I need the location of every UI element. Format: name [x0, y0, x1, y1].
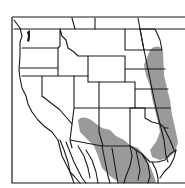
puget-sound — [27, 30, 30, 42]
range-area-plains — [144, 46, 178, 160]
baja-california — [60, 140, 86, 183]
coastline-pacific — [14, 20, 74, 183]
state-borders-northwest — [20, 29, 88, 124]
range-area-southwest — [78, 117, 156, 183]
range-map — [0, 0, 185, 188]
